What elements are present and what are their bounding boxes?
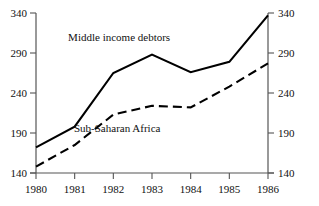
chart-canvas: 140190240290340 140190240290340 19801981… — [0, 0, 319, 206]
right-axis-ticks — [268, 13, 274, 173]
chart-figure: 140190240290340 140190240290340 19801981… — [0, 0, 319, 206]
left-tick-label: 290 — [11, 47, 28, 59]
x-tick-label: 1983 — [141, 183, 164, 195]
series-line-sub-saharan-africa — [36, 63, 268, 166]
x-tick-label: 1980 — [25, 183, 48, 195]
right-tick-label: 290 — [278, 47, 295, 59]
series-annotation-0: Middle income debtors — [68, 31, 170, 43]
left-axis-tick-labels: 140190240290340 — [11, 7, 28, 179]
x-tick-label: 1986 — [257, 183, 280, 195]
left-tick-label: 340 — [11, 7, 28, 19]
right-tick-label: 190 — [278, 127, 295, 139]
right-axis-tick-labels: 140190240290340 — [278, 7, 295, 179]
right-tick-label: 140 — [278, 167, 295, 179]
chart-annotations-group: Middle income debtorsSub-Saharan Africa — [68, 31, 170, 134]
x-axis-ticks — [36, 173, 268, 179]
left-tick-label: 240 — [11, 87, 28, 99]
x-tick-label: 1985 — [218, 183, 241, 195]
x-tick-label: 1982 — [102, 183, 124, 195]
right-tick-label: 340 — [278, 7, 295, 19]
left-axis-ticks — [30, 13, 36, 173]
left-tick-label: 140 — [11, 167, 28, 179]
x-tick-label: 1981 — [64, 183, 86, 195]
left-tick-label: 190 — [11, 127, 28, 139]
x-tick-label: 1984 — [180, 183, 203, 195]
right-tick-label: 240 — [278, 87, 295, 99]
series-annotation-1: Sub-Saharan Africa — [74, 122, 161, 134]
x-axis-tick-labels: 1980198119821983198419851986 — [25, 183, 280, 195]
